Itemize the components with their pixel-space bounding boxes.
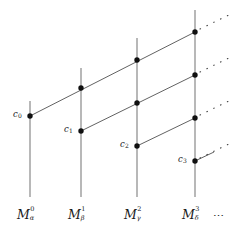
column-label-0: M0α <box>17 208 35 222</box>
diagonal-line-chain-0 <box>30 32 195 116</box>
generator-label-c1: c1 <box>64 125 73 134</box>
column-label-3-sub: δ <box>195 215 199 222</box>
node-chain1-col2 <box>134 100 139 105</box>
column-label-1-scripts: 1β <box>81 208 86 219</box>
column-label-0-sup: 0 <box>30 206 34 213</box>
column-label-3-scripts: 3δ <box>195 208 200 219</box>
column-label-1: M1β <box>68 208 86 222</box>
lattice-diagram-svg <box>0 0 241 235</box>
column-label-0-base: M <box>17 207 30 222</box>
column-label-3-sup: 3 <box>195 206 199 213</box>
lattice-nodes-group <box>27 29 197 163</box>
diagonal-line-chain-3 <box>195 152 214 161</box>
figure-root: c0 c1 c2 c3 M0α M1β M2γ M3δ ⋯ <box>0 0 241 235</box>
node-chain0-col3 <box>192 29 197 34</box>
node-c2 <box>134 143 139 148</box>
generator-label-c0-sub: 0 <box>18 112 22 119</box>
node-chain0-col2 <box>134 57 139 62</box>
node-chain1-col3 <box>192 72 197 77</box>
continuation-dots-chain-1 <box>200 57 231 72</box>
generator-label-c1-sub: 1 <box>69 127 73 134</box>
continuation-dots-chain-3 <box>200 143 231 158</box>
generator-label-c3: c3 <box>178 155 187 164</box>
column-label-2-base: M <box>124 207 137 222</box>
node-c3 <box>192 158 197 163</box>
column-label-2-scripts: 2γ <box>137 208 142 219</box>
column-label-2-sub: γ <box>137 215 141 222</box>
continuation-dots-chain-2 <box>200 100 231 115</box>
column-label-2: M2γ <box>124 208 142 222</box>
node-chain2-col3 <box>192 115 197 120</box>
column-label-1-sub: β <box>81 215 85 222</box>
continuation-dots-group <box>200 14 231 158</box>
node-c0 <box>27 113 32 118</box>
column-label-0-sub: α <box>30 215 34 222</box>
column-label-1-base: M <box>68 207 81 222</box>
column-label-3-base: M <box>182 207 195 222</box>
generator-label-c0: c0 <box>13 110 22 119</box>
column-label-1-sup: 1 <box>81 206 85 213</box>
column-trailing-ellipsis: ⋯ <box>213 210 225 223</box>
generator-label-c3-sub: 3 <box>183 157 187 164</box>
column-label-2-sup: 2 <box>137 206 141 213</box>
column-label-0-scripts: 0α <box>30 208 35 219</box>
generator-label-c2: c2 <box>120 140 129 149</box>
node-c1 <box>78 128 83 133</box>
generator-label-c2-sub: 2 <box>125 142 129 149</box>
column-label-3: M3δ <box>182 208 200 222</box>
node-chain0-col1 <box>78 85 83 90</box>
diagonal-line-chain-2 <box>137 118 195 146</box>
continuation-dots-chain-0 <box>200 14 231 29</box>
